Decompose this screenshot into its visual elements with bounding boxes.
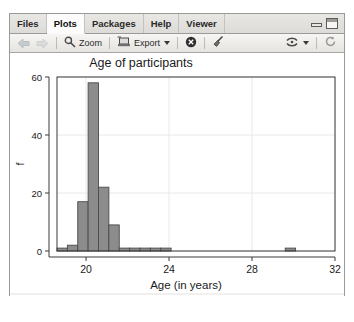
- toolbar-separator: [109, 37, 110, 49]
- tab-plots-label: Plots: [54, 18, 77, 29]
- histogram-plot: Age of participants020406020242832Age (i…: [10, 53, 344, 296]
- histogram-bar: [78, 202, 88, 251]
- pane-tab-bar: Files Plots Packages Help Viewer: [10, 14, 344, 34]
- tab-files[interactable]: Files: [10, 14, 47, 33]
- plots-toolbar: Zoom Export: [10, 34, 344, 53]
- zoom-button[interactable]: Zoom: [61, 36, 105, 51]
- tab-help[interactable]: Help: [144, 14, 180, 33]
- plots-pane-window: Files Plots Packages Help Viewer: [9, 13, 345, 296]
- toolbar-separator: [177, 37, 178, 49]
- tab-viewer[interactable]: Viewer: [179, 14, 224, 33]
- remove-plot-icon: [185, 34, 197, 52]
- x-axis-tick-label: 24: [163, 263, 175, 275]
- tab-packages[interactable]: Packages: [85, 14, 144, 33]
- tab-packages-label: Packages: [92, 18, 136, 29]
- y-axis-tick-label: 0: [37, 246, 42, 257]
- broom-icon: [212, 34, 225, 52]
- chart-title: Age of participants: [89, 56, 193, 70]
- x-axis-tick-label: 32: [329, 263, 341, 275]
- x-axis-label: Age (in years): [150, 279, 222, 291]
- publish-button[interactable]: [282, 36, 312, 51]
- x-axis-tick-label: 20: [80, 263, 92, 275]
- plot-canvas: Age of participants020406020242832Age (i…: [10, 53, 344, 296]
- next-plot-button[interactable]: [33, 36, 52, 51]
- x-axis-tick-label: 28: [246, 263, 258, 275]
- y-axis-tick-label: 20: [31, 188, 42, 199]
- window-controls: [307, 14, 344, 33]
- previous-plot-button[interactable]: [14, 36, 33, 51]
- histogram-bar: [67, 245, 77, 251]
- histogram-bar: [88, 83, 98, 251]
- maximize-icon[interactable]: [326, 18, 338, 29]
- tab-plots[interactable]: Plots: [47, 14, 85, 34]
- pane-bottom-rail: [10, 293, 344, 295]
- zoom-button-label: Zoom: [79, 38, 102, 48]
- chevron-down-icon: [303, 41, 309, 45]
- magnifier-icon: [64, 34, 76, 52]
- publish-icon: [285, 34, 299, 52]
- tab-bar-filler: [225, 14, 307, 33]
- y-axis-tick-label: 40: [31, 130, 42, 141]
- export-button-label: Export: [134, 38, 160, 48]
- histogram-bar: [109, 225, 119, 251]
- tab-files-label: Files: [17, 18, 39, 29]
- toolbar-separator: [56, 37, 57, 49]
- y-axis-label: f: [14, 162, 26, 165]
- export-button[interactable]: Export: [114, 36, 173, 51]
- refresh-button[interactable]: [321, 36, 340, 51]
- clear-all-plots-button[interactable]: [209, 36, 228, 51]
- histogram-bar: [98, 187, 108, 251]
- remove-plot-button[interactable]: [182, 36, 200, 51]
- forward-arrow-icon: [36, 38, 49, 49]
- tab-viewer-label: Viewer: [186, 18, 216, 29]
- export-icon: [117, 34, 131, 52]
- y-axis-tick-label: 60: [31, 72, 42, 83]
- back-arrow-icon: [17, 38, 30, 49]
- toolbar-separator: [316, 37, 317, 49]
- minimize-icon[interactable]: [311, 19, 322, 28]
- toolbar-separator: [204, 37, 205, 49]
- chevron-down-icon: [164, 41, 170, 45]
- tab-help-label: Help: [151, 18, 172, 29]
- refresh-icon: [324, 34, 337, 52]
